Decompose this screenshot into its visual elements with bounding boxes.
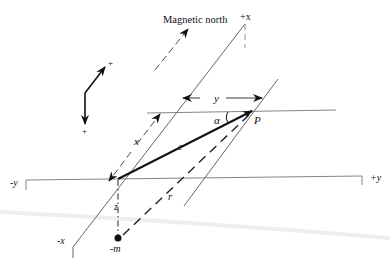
r-line — [123, 112, 252, 235]
magnetic-pole-geometry-diagram: + + Magnetic north +x -x -y +y y x c — [0, 0, 390, 261]
y-axis-line — [26, 176, 362, 190]
z-depth: z — [113, 180, 118, 236]
y-distance-label: y — [213, 92, 219, 104]
orientation-arrow-up — [85, 67, 105, 93]
alpha-label: α — [214, 114, 220, 126]
minus-x-label: -x — [57, 235, 65, 246]
magnetic-north-label: Magnetic north — [163, 14, 228, 25]
magnetic-north-arrow — [155, 29, 188, 70]
c-label: c — [178, 140, 183, 152]
x-distance-label: x — [133, 135, 139, 147]
y-axis: -y +y — [10, 172, 382, 190]
horizontal-line-through-p — [147, 110, 336, 113]
orientation-indicator: + + — [82, 58, 113, 136]
x-arrow-up — [137, 114, 160, 144]
point-p-label: P — [253, 114, 261, 126]
plus-y-label: +y — [370, 172, 382, 183]
orientation-plus-up-label: + — [108, 58, 113, 68]
orientation-plus-down-label: + — [82, 126, 87, 136]
r-label: r — [168, 190, 173, 202]
plus-x-label: +x — [240, 11, 251, 22]
magnetic-north-indicator: Magnetic north — [155, 14, 228, 70]
minus-y-label: -y — [10, 177, 18, 188]
magnetic-pole: -m — [110, 235, 122, 255]
z-label: z — [113, 201, 118, 212]
minus-m-label: -m — [110, 243, 121, 254]
y-distance-dimension: y — [183, 92, 262, 104]
pole-dot — [115, 235, 122, 242]
r-distance: r — [123, 112, 252, 235]
